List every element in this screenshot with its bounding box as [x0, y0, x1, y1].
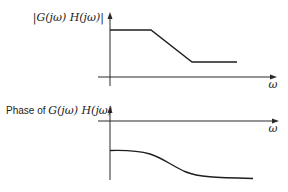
phase-y-label-prefix: Phase of: [6, 105, 48, 116]
magnitude-x-label: ω: [269, 78, 278, 91]
phase-y-label-math: G(jω) H(jω): [48, 104, 112, 117]
phase-y-label: Phase of G(jω) H(jω): [6, 104, 112, 117]
phase-plot: Phase of G(jω) H(jω) ω: [6, 104, 279, 180]
phase-x-label: ω: [269, 122, 278, 135]
bode-diagram: |G(jω) H(jω)| ω Phase of G(jω) H(jω) ω: [0, 0, 288, 192]
magnitude-y-axis-arrow-icon: [108, 12, 113, 19]
magnitude-curve: [110, 30, 237, 62]
magnitude-plot: |G(jω) H(jω)| ω: [33, 11, 278, 91]
phase-curve: [110, 150, 253, 178]
magnitude-y-label: |G(jω) H(jω)|: [33, 11, 104, 25]
